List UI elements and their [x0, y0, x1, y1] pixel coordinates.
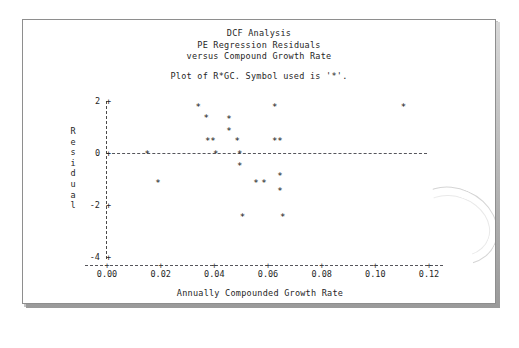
y-axis-tick-mark: + [106, 201, 111, 210]
data-point-marker: * [277, 186, 282, 195]
x-axis-tick-label: 0.08 [311, 270, 331, 279]
zero-reference-line [107, 153, 427, 154]
y-axis-title-char: a [68, 190, 78, 201]
data-point-marker: * [277, 137, 282, 146]
y-axis-tick-label: 0 [95, 149, 100, 158]
y-axis-line [106, 101, 107, 259]
y-axis-tick-label: 2 [95, 97, 100, 106]
x-axis-tick-label: 0.00 [97, 270, 117, 279]
data-point-marker: * [226, 115, 231, 124]
data-point-marker: * [155, 178, 160, 187]
data-point-marker: * [261, 178, 266, 187]
y-axis-title-char: R [68, 126, 78, 137]
x-axis-line [85, 265, 443, 266]
y-axis-tick-mark: + [106, 97, 111, 106]
data-point-marker: * [280, 212, 285, 221]
y-axis-title-char: s [68, 147, 78, 158]
data-point-marker: * [234, 137, 239, 146]
data-point-marker: * [237, 150, 242, 159]
data-point-marker: * [196, 103, 201, 112]
data-point-marker: * [213, 150, 218, 159]
data-point-marker: * [401, 103, 406, 112]
y-axis-title: Residual [68, 126, 78, 211]
y-axis-title-char: l [68, 200, 78, 211]
data-point-marker: * [237, 161, 242, 170]
y-axis-title-char: e [68, 137, 78, 148]
y-axis-tick-label: -2 [90, 201, 100, 210]
y-axis-title-char: d [68, 168, 78, 179]
y-axis-title-char: u [68, 179, 78, 190]
x-axis-tick-label: 0.06 [258, 270, 278, 279]
scatter-plot: Residual Annually Compounded Growth Rate… [23, 20, 496, 304]
data-point-marker: * [210, 137, 215, 146]
y-axis-tick-mark: + [106, 149, 111, 158]
data-point-marker: * [204, 113, 209, 122]
data-point-marker: * [240, 212, 245, 221]
data-point-marker: * [272, 103, 277, 112]
y-axis-title-char: i [68, 158, 78, 169]
data-point-marker: * [253, 178, 258, 187]
x-axis-tick-label: 0.12 [419, 270, 439, 279]
data-point-marker: * [226, 126, 231, 135]
y-axis-tick-label: -4 [90, 253, 100, 262]
x-axis-tick-label: 0.04 [204, 270, 224, 279]
screenshot-root: DCF Analysis PE Regression Residuals ver… [0, 0, 519, 348]
data-point-marker: * [277, 172, 282, 181]
x-axis-tick-label: 0.02 [150, 270, 170, 279]
x-axis-title: Annually Compounded Growth Rate [23, 288, 496, 298]
x-axis-tick-label: 0.10 [365, 270, 385, 279]
data-point-marker: * [145, 150, 150, 159]
report-page: DCF Analysis PE Regression Residuals ver… [22, 19, 496, 304]
